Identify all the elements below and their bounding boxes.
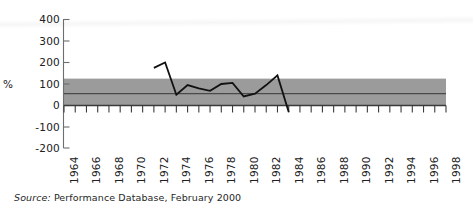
chart-figure: 400 300 200 100 0 -100 -200 % 1964196619… xyxy=(0,0,473,211)
x-tick-label: 1998 xyxy=(450,156,462,184)
x-tick-label: 1986 xyxy=(315,156,327,184)
x-tick-label: 1984 xyxy=(293,156,305,184)
x-tick-label: 1964 xyxy=(68,156,80,184)
y-tick-label: 100 xyxy=(18,78,60,90)
y-axis-ticks xyxy=(64,20,70,149)
y-tick-label: 200 xyxy=(18,56,60,68)
y-tick-label: 400 xyxy=(18,13,60,25)
x-tick-label: 1988 xyxy=(338,156,350,184)
x-tick-label: 1978 xyxy=(225,156,237,184)
x-tick-label: 1982 xyxy=(270,156,282,184)
x-axis-ticks xyxy=(64,106,446,113)
x-tick-label: 1994 xyxy=(405,156,417,184)
interquartile-band xyxy=(64,79,446,106)
x-tick-label: 1980 xyxy=(248,156,260,184)
source-label: Source: xyxy=(14,192,51,203)
y-tick-label: 0 xyxy=(18,99,60,111)
x-tick-label: 1974 xyxy=(180,156,192,184)
x-tick-label: 1990 xyxy=(360,156,372,184)
y-tick-label: -100 xyxy=(14,121,60,133)
source-note: Source: Performance Database, February 2… xyxy=(14,192,241,203)
x-tick-label: 1996 xyxy=(428,156,440,184)
x-tick-label: 1966 xyxy=(90,156,102,184)
x-tick-label: 1992 xyxy=(383,156,395,184)
x-tick-label: 1970 xyxy=(135,156,147,184)
x-tick-label: 1976 xyxy=(203,156,215,184)
y-axis-unit-label: % xyxy=(3,78,13,90)
x-tick-label: 1968 xyxy=(113,156,125,184)
source-text: Performance Database, February 2000 xyxy=(54,192,241,203)
y-tick-label: 300 xyxy=(18,35,60,47)
x-tick-label: 1972 xyxy=(158,156,170,184)
y-tick-label: -200 xyxy=(14,142,60,154)
